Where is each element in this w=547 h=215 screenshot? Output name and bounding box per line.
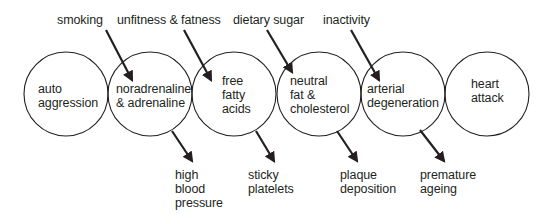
node-line: fat &: [290, 88, 349, 102]
node-label-auto-aggression: auto aggression: [38, 82, 98, 110]
output-line: high: [175, 168, 223, 182]
node-line: heart: [471, 77, 504, 91]
node-line: neutral: [290, 74, 349, 88]
output-label-sticky-platelets: sticky platelets: [248, 168, 294, 196]
output-line: platelets: [248, 182, 294, 196]
node-line: free: [222, 74, 251, 88]
output-line: pressure: [175, 196, 223, 210]
node-line: aggression: [38, 96, 98, 110]
node-label-noradrenaline: noradrenaline & adrenaline: [116, 82, 191, 110]
node-line: noradrenaline: [116, 82, 191, 96]
input-label-inactivity: inactivity: [323, 13, 370, 27]
output-line: sticky: [248, 168, 294, 182]
arrow-high-blood-pressure-icon: [172, 131, 192, 161]
node-line: fatty: [222, 88, 251, 102]
input-label-smoking: smoking: [57, 13, 103, 27]
arrow-smoking-icon: [106, 30, 132, 80]
node-line: cholesterol: [290, 102, 349, 116]
output-line: ageing: [420, 182, 476, 196]
node-label-arterial-degeneration: arterial degeneration: [367, 82, 439, 110]
output-line: premature: [420, 168, 476, 182]
output-line: deposition: [340, 182, 396, 196]
node-line: degeneration: [367, 96, 439, 110]
arrow-sticky-platelets-icon: [256, 131, 274, 161]
node-line: auto: [38, 82, 98, 96]
arrow-dietary-sugar-icon: [267, 30, 292, 72]
output-line: plaque: [340, 168, 396, 182]
node-label-neutral-fat: neutral fat & cholesterol: [290, 74, 349, 116]
node-line: & adrenaline: [116, 96, 191, 110]
output-label-plaque-deposition: plaque deposition: [340, 168, 396, 196]
input-label-dietary-sugar: dietary sugar: [233, 13, 304, 27]
input-label-unfitness-fatness: unfitness & fatness: [117, 13, 221, 27]
node-line: arterial: [367, 82, 439, 96]
node-line: attack: [471, 91, 504, 105]
arrow-premature-ageing-icon: [420, 130, 444, 161]
output-line: blood: [175, 182, 223, 196]
node-label-heart-attack: heart attack: [471, 77, 504, 105]
node-label-free-fatty-acids: free fatty acids: [222, 74, 251, 116]
output-label-premature-ageing: premature ageing: [420, 168, 476, 196]
arrow-plaque-deposition-icon: [337, 131, 357, 161]
node-line: acids: [222, 102, 251, 116]
output-label-high-blood-pressure: high blood pressure: [175, 168, 223, 210]
